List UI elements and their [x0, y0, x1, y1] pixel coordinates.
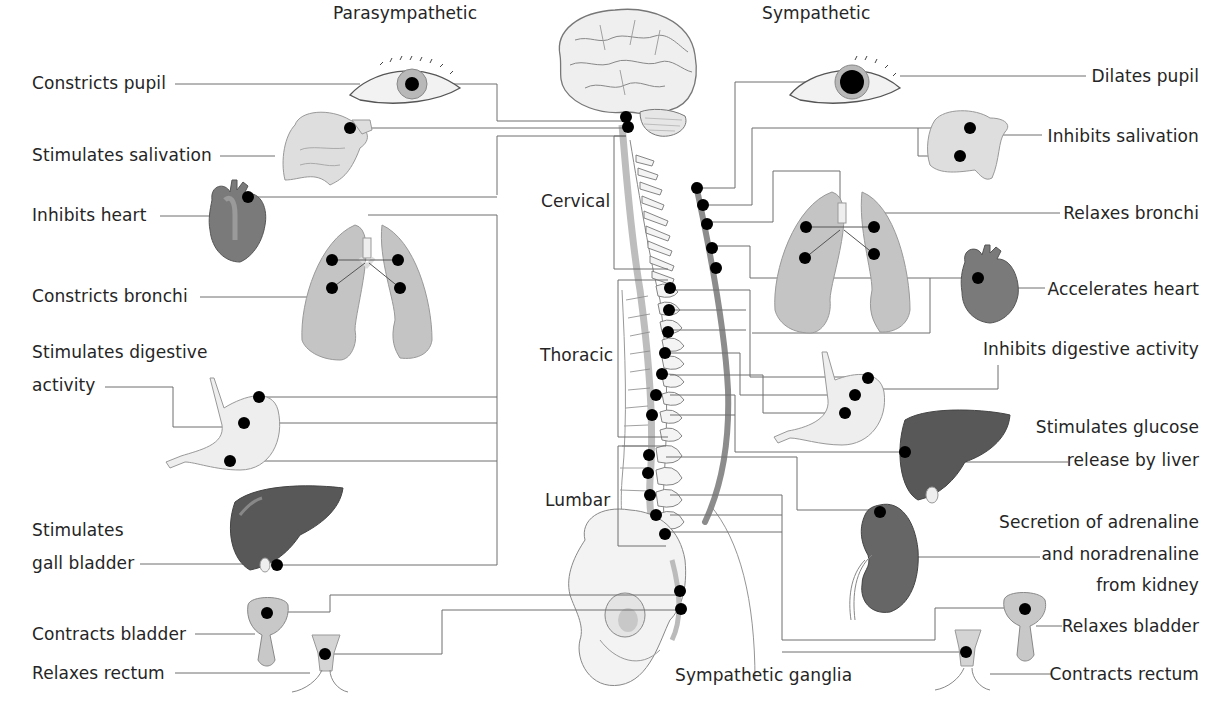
heart-icon-right — [961, 245, 1018, 323]
stomach-icon-left — [166, 378, 280, 470]
inhibits-digestive-label: Inhibits digestive activity — [983, 339, 1199, 359]
autonomic-nervous-system-diagram: Parasympathetic Sympathetic Cervical Tho… — [0, 0, 1227, 721]
inhibits-heart-label: Inhibits heart — [32, 205, 146, 225]
stimulates-digestive-label-1: Stimulates digestive — [32, 342, 208, 362]
accelerates-heart-label: Accelerates heart — [1048, 279, 1199, 299]
relaxes-bladder-label: Relaxes bladder — [1062, 616, 1199, 636]
dilates-pupil-label: Dilates pupil — [1092, 66, 1199, 86]
lungs-icon-left — [302, 225, 432, 360]
cervical-label: Cervical — [541, 191, 610, 211]
relaxes-rectum-label: Relaxes rectum — [32, 663, 165, 683]
parasympathetic-title: Parasympathetic — [333, 3, 477, 23]
contracts-rectum-label: Contracts rectum — [1050, 664, 1199, 684]
inhibits-salivation-label: Inhibits salivation — [1048, 126, 1199, 146]
adrenaline-label-3: from kidney — [1096, 575, 1199, 595]
sympathetic-ganglia-label: Sympathetic ganglia — [675, 665, 852, 685]
constricts-bronchi-label: Constricts bronchi — [32, 286, 188, 306]
stimulates-glucose-label-2: release by liver — [1067, 450, 1199, 470]
bladder-icon-right — [1004, 593, 1046, 662]
eye-icon-left — [350, 56, 460, 103]
lumbar-label: Lumbar — [545, 490, 610, 510]
salivary-glands-icon-right — [928, 111, 1008, 179]
heart-icon-left — [209, 180, 266, 262]
adrenaline-label-2: and noradrenaline — [1042, 544, 1199, 564]
liver-icon-right — [900, 410, 1010, 503]
rectum-icon-left — [292, 635, 348, 692]
adrenaline-label-1: Secretion of adrenaline — [999, 512, 1199, 532]
sympathetic-title: Sympathetic — [762, 3, 870, 23]
kidney-icon-right — [850, 504, 918, 620]
stimulates-glucose-label-1: Stimulates glucose — [1036, 417, 1199, 437]
relaxes-bronchi-label: Relaxes bronchi — [1063, 203, 1199, 223]
stimulates-digestive-label-2: activity — [32, 375, 95, 395]
contracts-bladder-label: Contracts bladder — [32, 624, 186, 644]
constricts-pupil-label: Constricts pupil — [32, 73, 166, 93]
salivary-glands-icon-left — [283, 112, 372, 185]
rectum-icon-right — [935, 630, 990, 690]
liver-icon-left — [230, 486, 343, 572]
stomach-icon-right — [774, 352, 885, 445]
stimulates-gall-bladder-label-1: Stimulates — [32, 520, 124, 540]
thoracic-label: Thoracic — [540, 345, 613, 365]
stimulates-gall-bladder-label-2: gall bladder — [32, 553, 134, 573]
stimulates-salivation-label: Stimulates salivation — [32, 145, 212, 165]
